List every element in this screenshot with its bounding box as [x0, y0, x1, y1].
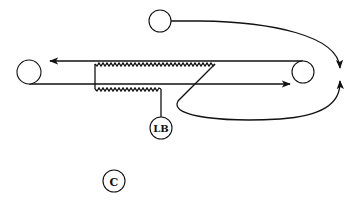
return-loop-arrow — [177, 64, 340, 120]
c-label: C — [110, 176, 119, 189]
lb-node: LB — [150, 117, 172, 139]
c-node: C — [103, 170, 125, 192]
upper-zigzag — [95, 63, 215, 66]
lower-zigzag — [95, 88, 161, 91]
right-roller — [292, 61, 314, 83]
top-roller — [149, 10, 171, 32]
lb-label: LB — [153, 123, 168, 134]
left-roller — [17, 60, 41, 84]
diagram-canvas: LB C — [0, 0, 363, 203]
